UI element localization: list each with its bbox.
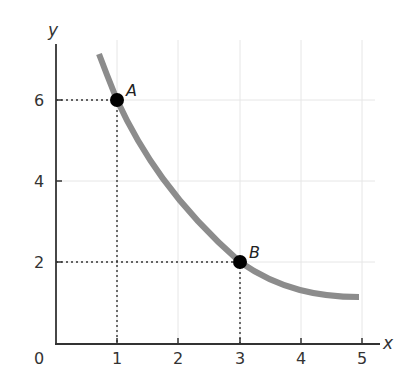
axis-ticks [56, 100, 362, 344]
point-b [233, 255, 247, 269]
y-tick-2: 2 [34, 253, 44, 272]
x-tick-4: 4 [296, 349, 306, 368]
x-tick-2: 2 [173, 349, 183, 368]
gridlines [56, 40, 375, 344]
point-a-label: A [125, 81, 137, 100]
x-tick-1: 1 [112, 349, 122, 368]
y-tick-4: 4 [34, 172, 44, 191]
y-axis-label: y [47, 20, 59, 40]
point-b-label: B [249, 243, 260, 262]
guide-lines [56, 100, 240, 344]
point-a [110, 93, 124, 107]
x-tick-3: 3 [235, 349, 245, 368]
chart: A B y x 0 1 2 3 4 5 6 4 2 [0, 0, 406, 389]
x-tick-5: 5 [357, 349, 367, 368]
y-tick-6: 6 [34, 91, 44, 110]
x-axis-label: x [382, 333, 394, 353]
x-tick-0: 0 [34, 349, 44, 368]
demand-curve [99, 54, 359, 297]
